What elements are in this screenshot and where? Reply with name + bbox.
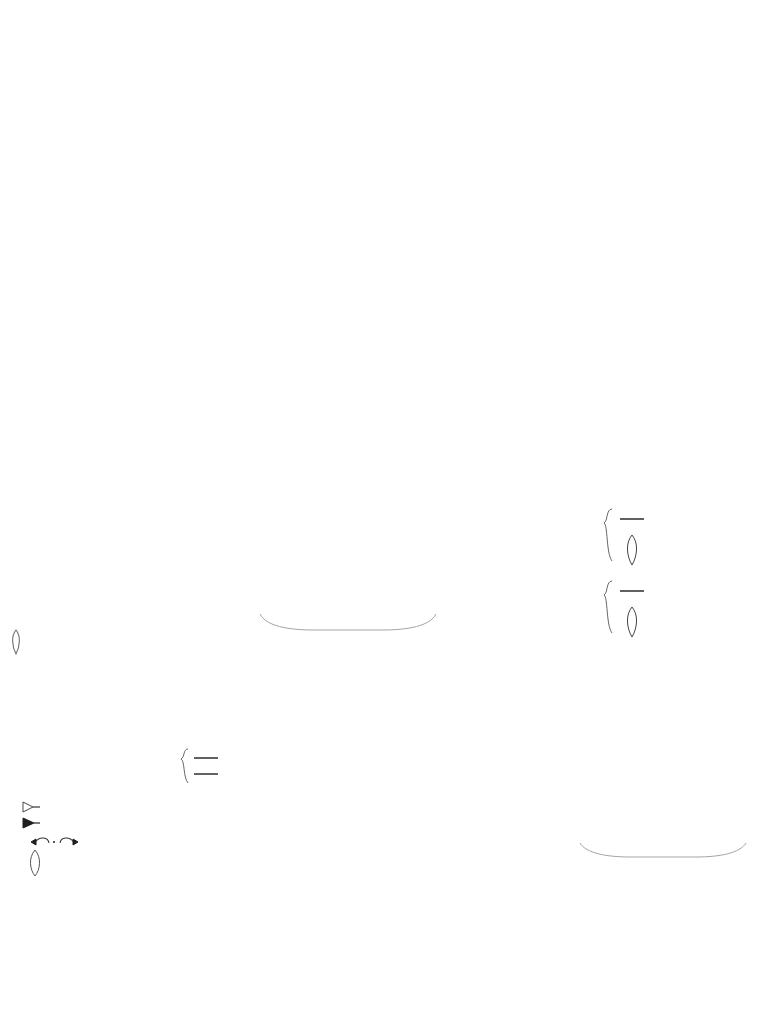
main-repeat-stitch-bracket xyxy=(258,612,438,634)
later-slip-stitch-loop-icon xyxy=(13,630,20,654)
color-legend-group-b-symbols xyxy=(602,577,722,639)
main-chart-svg xyxy=(8,26,520,622)
chart-b-area xyxy=(268,666,760,838)
bottom-chart-svg xyxy=(0,876,778,1014)
chart-b-row-markers xyxy=(744,666,778,842)
cut-yarn-triangle-filled-icon xyxy=(23,818,40,828)
bottom-chart-area xyxy=(0,876,778,1014)
carry-yarn-arrows-icon xyxy=(31,838,78,845)
chart-b-color-legend-symbols xyxy=(180,746,270,786)
chart-b-svg xyxy=(268,666,760,838)
color-legend-group-a-symbols xyxy=(602,505,722,567)
symbol-legend xyxy=(18,798,258,864)
join-yarn-triangle-open-icon xyxy=(23,802,40,812)
main-legend xyxy=(10,628,210,668)
loop-icon-b xyxy=(627,607,636,637)
main-chart-row-bracket xyxy=(482,26,562,626)
main-chart-area xyxy=(8,26,520,622)
loop-icon-a xyxy=(627,535,636,565)
chart-b-repeat-bracket xyxy=(578,841,748,861)
later-slip-stitch-mustard-icon xyxy=(26,848,50,878)
